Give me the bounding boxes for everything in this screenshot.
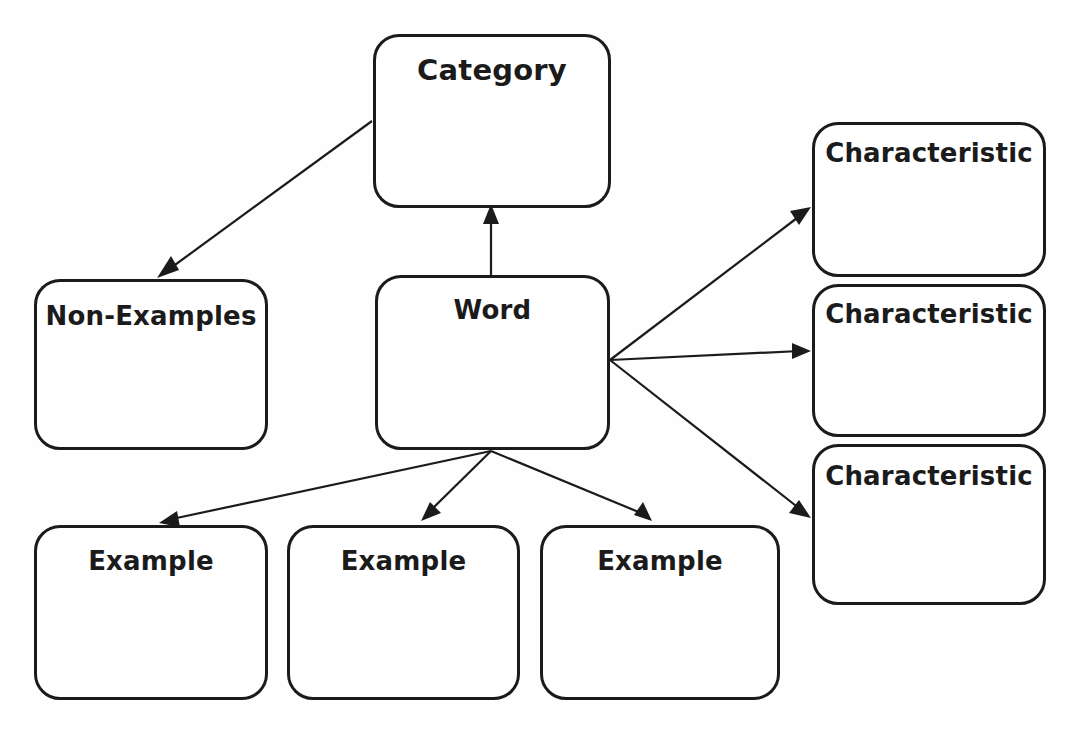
node-characteristic-3-label: Characteristic bbox=[815, 461, 1043, 491]
node-example-1[interactable]: Example bbox=[34, 525, 268, 700]
node-non-examples[interactable]: Non-Examples bbox=[34, 279, 268, 450]
node-category-label: Category bbox=[376, 53, 608, 87]
edge-category-to-non-examples bbox=[157, 121, 372, 278]
diagram-canvas: Category Non-Examples Word Characteristi… bbox=[0, 0, 1074, 741]
node-example-3-label: Example bbox=[543, 546, 777, 576]
node-characteristic-1-label: Characteristic bbox=[815, 138, 1043, 168]
node-characteristic-2[interactable]: Characteristic bbox=[812, 284, 1046, 437]
node-category[interactable]: Category bbox=[373, 34, 611, 208]
edge-word-to-characteristic-3 bbox=[610, 360, 811, 518]
node-word[interactable]: Word bbox=[375, 275, 610, 450]
edge-word-to-example-2 bbox=[421, 451, 491, 521]
node-example-2-label: Example bbox=[290, 546, 517, 576]
node-characteristic-3[interactable]: Characteristic bbox=[812, 444, 1046, 605]
node-characteristic-2-label: Characteristic bbox=[815, 299, 1043, 329]
node-example-1-label: Example bbox=[37, 546, 265, 576]
edge-word-to-characteristic-2 bbox=[610, 343, 811, 360]
edge-word-to-category bbox=[483, 204, 499, 276]
edge-word-to-example-1 bbox=[159, 451, 491, 527]
edge-word-to-characteristic-1 bbox=[610, 207, 811, 360]
node-word-label: Word bbox=[378, 295, 607, 325]
edge-word-to-example-3 bbox=[491, 451, 652, 521]
node-example-3[interactable]: Example bbox=[540, 525, 780, 700]
node-characteristic-1[interactable]: Characteristic bbox=[812, 122, 1046, 277]
node-non-examples-label: Non-Examples bbox=[37, 301, 265, 331]
node-example-2[interactable]: Example bbox=[287, 525, 520, 700]
